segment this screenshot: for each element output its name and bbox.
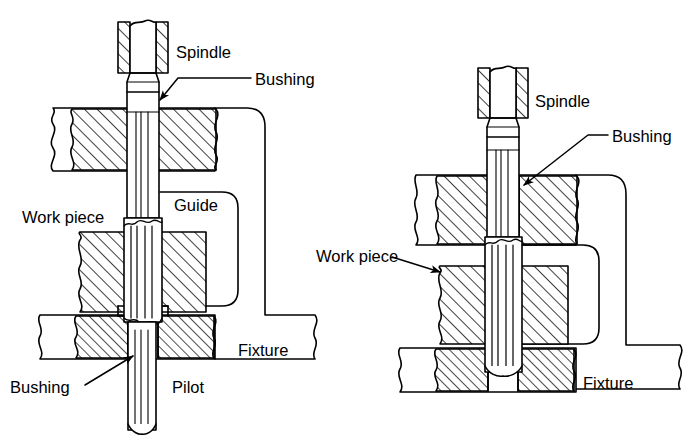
right-tool-shank	[487, 137, 519, 237]
left-spindle	[118, 20, 168, 73]
label-left-pilot: Pilot	[172, 378, 205, 396]
label-right-bushing: Bushing	[612, 127, 672, 145]
label-left-fixture: Fixture	[238, 341, 288, 359]
figure-canvas: Spindle Bushing Guide Work piece Fixture…	[0, 0, 692, 448]
right-tool-flutes	[485, 237, 522, 376]
label-left-bushing-top: Bushing	[255, 70, 315, 88]
left-tool-pilot	[128, 322, 156, 434]
label-left-bushing-bottom: Bushing	[10, 378, 70, 396]
label-right-workpiece: Work piece	[316, 247, 398, 265]
label-right-spindle: Spindle	[535, 92, 590, 110]
left-tool-shank	[127, 92, 159, 218]
label-left-workpiece: Work piece	[22, 208, 104, 226]
technical-diagram-svg: Spindle Bushing Guide Work piece Fixture…	[0, 0, 692, 448]
label-left-guide: Guide	[174, 196, 218, 214]
right-spindle	[478, 66, 528, 118]
label-left-spindle: Spindle	[176, 43, 231, 61]
left-tool-flutes	[124, 218, 162, 324]
label-right-fixture: Fixture	[583, 374, 633, 392]
